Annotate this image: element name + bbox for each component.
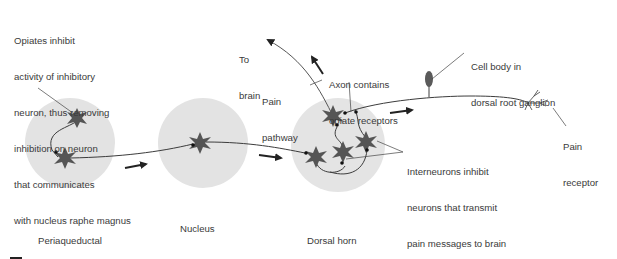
label-line: brain (239, 90, 260, 102)
ganglion-cell-body (425, 71, 433, 87)
label-line: inhibition on neuron (14, 143, 131, 155)
label-line: Pain (262, 96, 298, 108)
label-line: that communicates (14, 179, 131, 191)
label-line: Periaqueductal (38, 235, 102, 247)
region-label-raphe: Nucleus raphe magnus in medulla (180, 199, 224, 259)
region-label-dorsal-horn: Dorsal horn of spinal cord gray matter (307, 211, 364, 259)
pain-receptor-label: Pain receptor (563, 117, 598, 201)
cell-body-label: Cell body in dorsal root ganglion (471, 37, 555, 121)
label-line: dorsal root ganglion (471, 97, 555, 109)
label-line: neurons that transmit (407, 202, 506, 214)
up-left-arrow-icon (312, 57, 323, 74)
interneurons-label: Interneurons inhibit neurons that transm… (407, 142, 506, 259)
label-line: To (239, 54, 260, 66)
axon-label: Axon contains opiate receptors (329, 55, 398, 139)
label-line: Pain (563, 141, 598, 153)
label-line: pain messages to brain (407, 238, 506, 250)
label-line: receptor (563, 177, 598, 189)
label-line: Cell body in (471, 61, 555, 73)
to-brain-label: To brain (239, 30, 260, 114)
opiates-annotation: Opiates inhibit activity of inhibitory n… (14, 11, 131, 239)
region-label-periaqueductal: Periaqueductal gray matter in midbrain (38, 211, 102, 259)
label-line: Dorsal horn (307, 235, 364, 247)
pain-pathway-label: Pain pathway (262, 72, 298, 156)
label-line: Nucleus (180, 223, 224, 235)
label-line: Opiates inhibit (14, 35, 131, 47)
label-line: neuron, thus removing (14, 107, 131, 119)
label-line: Axon contains (329, 79, 398, 91)
label-line: activity of inhibitory (14, 71, 131, 83)
label-line: pathway (262, 132, 298, 144)
label-line: Interneurons inhibit (407, 166, 506, 178)
label-line: opiate receptors (329, 115, 398, 127)
